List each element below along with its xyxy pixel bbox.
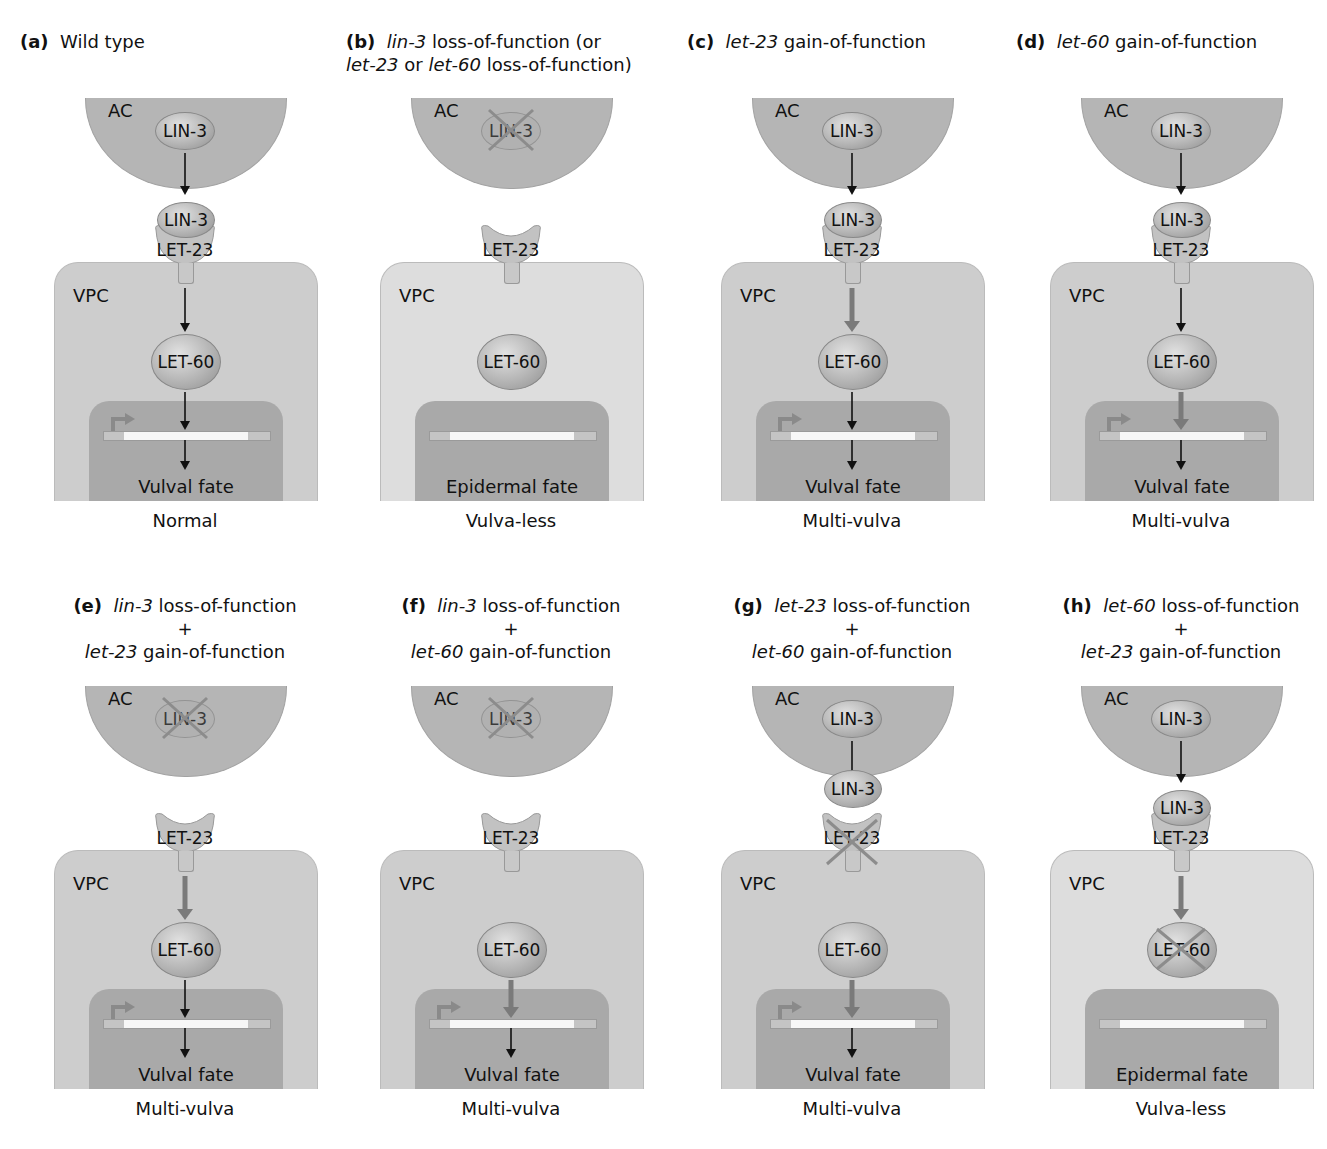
let60-label: LET-60: [484, 352, 541, 372]
arrow-down-icon: [173, 392, 197, 434]
ac-label: AC: [434, 100, 459, 121]
panel-title: (f) lin-3 loss-of-function+let-60 gain-o…: [346, 594, 676, 663]
cell-fate-label: Vulval fate: [89, 476, 283, 497]
let60-label: LET-60: [1154, 352, 1211, 372]
title-segment: let-23: [726, 31, 779, 52]
lin3-protein-bound: LIN-3: [157, 202, 215, 238]
phenotype-label: Multi-vulva: [54, 1098, 316, 1119]
lin3-label: LIN-3: [830, 709, 874, 729]
arrow-down-icon: [173, 153, 197, 199]
lin3-label: LIN-3: [1160, 210, 1204, 230]
receptor-stem: [178, 851, 194, 872]
title-segment: Wild type: [60, 31, 145, 52]
arrow-down-icon: [1169, 440, 1193, 474]
let60-label: LET-60: [825, 352, 882, 372]
title-segment: loss-of-function: [827, 595, 971, 616]
arrow-down-icon: [1169, 741, 1193, 787]
let60-protein: LET-60: [477, 922, 547, 978]
title-segment: +: [844, 618, 859, 639]
cell-fate-label: Epidermal fate: [1085, 1064, 1279, 1085]
title-segment: gain-of-function: [1109, 31, 1257, 52]
title-segment: gain-of-function: [137, 641, 285, 662]
knockout-x-icon: [486, 107, 536, 157]
title-line: (d) let-60 gain-of-function: [1016, 30, 1327, 53]
let23-label: LET-23: [1141, 240, 1221, 260]
title-line: (e) lin-3 loss-of-function: [20, 594, 350, 617]
title-line: +: [20, 617, 350, 640]
title-segment: let-60: [1103, 595, 1156, 616]
panel-title: (g) let-23 loss-of-function+let-60 gain-…: [687, 594, 1017, 663]
panel-title: (d) let-60 gain-of-function: [1016, 30, 1327, 53]
thick-arrow-icon: [840, 288, 864, 336]
title-segment: let-23: [774, 595, 827, 616]
lin3-label: LIN-3: [164, 210, 208, 230]
title-line: (f) lin-3 loss-of-function: [346, 594, 676, 617]
let60-protein: LET-60: [151, 334, 221, 390]
panel-c: (c) let-23 gain-of-functionACLIN-3VPCVul…: [687, 30, 1017, 590]
let23-label: LET-23: [471, 240, 551, 260]
nucleus: Epidermal fate: [415, 401, 609, 501]
arrow-down-icon: [1169, 153, 1193, 199]
phenotype-label: Normal: [54, 510, 316, 531]
lin3-label: LIN-3: [830, 121, 874, 141]
lin3-label: LIN-3: [1159, 121, 1203, 141]
arrow-down-icon: [840, 440, 864, 474]
receptor-stem: [178, 263, 194, 284]
vpc-label: VPC: [73, 285, 109, 306]
knockout-x-icon: [824, 817, 880, 871]
ac-label: AC: [1104, 100, 1129, 121]
panel-label: (f): [402, 595, 426, 616]
thick-arrow-icon: [840, 980, 864, 1022]
title-segment: let-60: [752, 641, 805, 662]
knockout-x-icon: [160, 695, 210, 745]
title-segment: let-60: [428, 54, 481, 75]
let23-label: LET-23: [145, 828, 225, 848]
panel-label: (a): [20, 31, 49, 52]
thick-arrow-icon: [1169, 392, 1193, 434]
receptor-stem: [1174, 851, 1190, 872]
ac-label: AC: [775, 688, 800, 709]
promoter-arrow-icon: [435, 997, 461, 1019]
phenotype-label: Vulva-less: [1050, 1098, 1312, 1119]
lin3-label: LIN-3: [831, 779, 875, 799]
panel-label: (g): [733, 595, 762, 616]
ac-label: AC: [108, 688, 133, 709]
receptor-stem: [504, 851, 520, 872]
title-line: +: [687, 617, 1017, 640]
title-segment: lin-3: [387, 31, 426, 52]
let60-label: LET-60: [158, 940, 215, 960]
knockout-x-icon: [486, 695, 536, 745]
title-segment: gain-of-function: [463, 641, 611, 662]
let23-label: LET-23: [812, 240, 892, 260]
let23-label: LET-23: [145, 240, 225, 260]
panel-f: (f) lin-3 loss-of-function+let-60 gain-o…: [346, 594, 676, 1149]
phenotype-label: Multi-vulva: [1050, 510, 1312, 531]
let60-protein: LET-60: [818, 334, 888, 390]
lin3-protein-ac: LIN-3: [1151, 700, 1211, 738]
arrow-down-icon: [173, 288, 197, 336]
title-segment: let-23: [1081, 641, 1134, 662]
title-segment: +: [177, 618, 192, 639]
vpc-label: VPC: [740, 285, 776, 306]
let60-protein: LET-60: [477, 334, 547, 390]
gene-coding-region: [450, 432, 574, 440]
lin3-protein-unbound: LIN-3: [824, 770, 882, 808]
phenotype-label: Multi-vulva: [721, 510, 983, 531]
target-gene: [1099, 1019, 1267, 1029]
ac-label: AC: [434, 688, 459, 709]
arrow-down-icon: [1169, 288, 1193, 336]
title-segment: gain-of-function: [1133, 641, 1281, 662]
panel-label: (d): [1016, 31, 1045, 52]
cell-fate-label: Epidermal fate: [415, 476, 609, 497]
title-line: +: [346, 617, 676, 640]
panel-title: (b) lin-3 loss-of-function (orlet-23 or …: [346, 30, 676, 76]
ac-label: AC: [775, 100, 800, 121]
title-line: let-23 gain-of-function: [20, 640, 350, 663]
lin3-protein-ac: LIN-3: [822, 112, 882, 150]
title-segment: let-23: [85, 641, 138, 662]
cell-fate-label: Vulval fate: [756, 1064, 950, 1085]
lin3-protein-bound: LIN-3: [1153, 790, 1211, 826]
panel-d: (d) let-60 gain-of-functionACLIN-3VPCVul…: [1016, 30, 1327, 590]
panel-label: (h): [1063, 595, 1092, 616]
title-line: let-23 gain-of-function: [1016, 640, 1327, 663]
